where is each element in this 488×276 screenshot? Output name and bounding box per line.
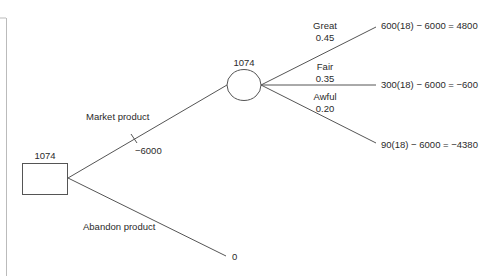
fair-payoff: 300(18) − 6000 = −600 [381,80,478,90]
market-product-label: Market product [86,112,149,122]
great-label: Great [313,21,337,31]
decision-tree-canvas [0,0,488,276]
branch-abandon-product[interactable] [68,178,226,256]
great-payoff: 600(18) − 6000 = 4800 [381,21,478,31]
fair-probability: 0.35 [316,74,335,84]
fair-label: Fair [317,62,333,72]
abandon-product-payoff: 0 [232,252,237,262]
chance-node-value: 1074 [233,58,254,68]
decision-node-square[interactable] [23,164,68,195]
awful-payoff: 90(18) − 6000 = −4380 [381,140,478,150]
market-product-cost: −6000 [135,146,162,156]
abandon-product-label: Abandon product [83,222,155,232]
branch-market-product[interactable] [68,85,227,178]
awful-probability: 0.20 [316,104,335,114]
chance-node-circle[interactable] [227,70,261,101]
awful-label: Awful [313,92,336,102]
great-probability: 0.45 [316,33,335,43]
decision-node-value: 1074 [34,151,55,161]
